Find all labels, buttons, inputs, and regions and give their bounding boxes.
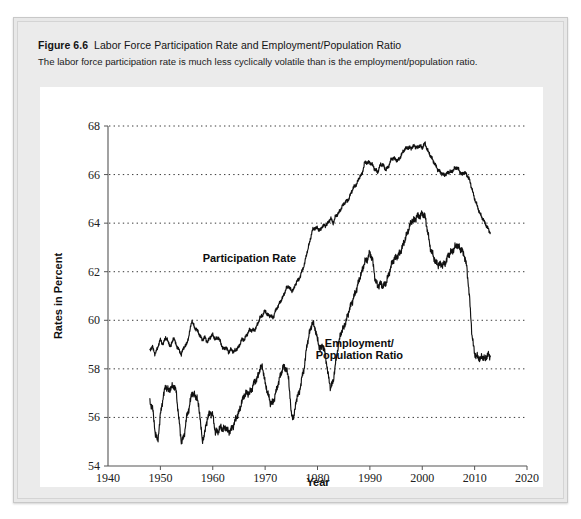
y-tick-label-66: 66 [88,168,100,182]
figure-card-inner: Figure 6.6 Labor Force Participation Rat… [17,21,564,499]
figure-card: Figure 6.6 Labor Force Participation Rat… [13,17,568,503]
annotation-1: Employment/ [325,337,394,349]
y-tick-label-68: 68 [88,119,100,133]
y-tick-label-58: 58 [88,362,100,376]
figure-subtitle: The labor force participation rate is mu… [38,55,548,69]
y-tick-label-62: 62 [88,265,100,279]
figure-caption: Figure 6.6 Labor Force Participation Rat… [38,38,548,69]
x-axis-title: Year [306,476,330,487]
x-tick-label-2010: 2010 [463,471,487,485]
y-tick-label-54: 54 [88,459,100,473]
x-tick-label-1950: 1950 [148,471,172,485]
x-tick-label-1990: 1990 [358,471,382,485]
figure-title-text: Labor Force Participation Rate and Emplo… [94,39,401,51]
y-tick-label-56: 56 [88,410,100,424]
annotation-2: Population Ratio [316,349,404,361]
line-chart: 194019501960197019801990200020102020 545… [40,87,543,487]
figure-number-label: Figure 6.6 [38,39,88,51]
figure-title-line: Figure 6.6 Labor Force Participation Rat… [38,38,548,52]
x-tick-label-1960: 1960 [201,471,225,485]
chart-background [40,87,543,487]
chart-plot-panel: 194019501960197019801990200020102020 545… [40,87,543,487]
annotation-0: Participation Rate [203,252,297,264]
x-tick-label-2020: 2020 [515,471,539,485]
x-tick-label-2000: 2000 [410,471,434,485]
x-tick-label-1970: 1970 [253,471,277,485]
y-tick-label-60: 60 [88,313,100,327]
y-axis-title: Rates in Percent [52,253,64,340]
x-tick-label-1940: 1940 [96,471,120,485]
y-tick-label-64: 64 [88,216,100,230]
